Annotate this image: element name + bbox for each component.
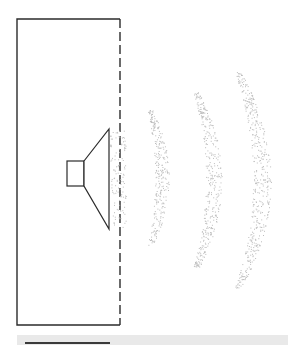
wave-dot bbox=[260, 213, 261, 214]
wave-dot bbox=[205, 126, 206, 127]
wave-dot bbox=[210, 234, 211, 235]
wave-dot bbox=[263, 180, 264, 181]
wave-dot bbox=[207, 246, 208, 247]
wave-dot bbox=[207, 131, 208, 132]
wave-dot bbox=[118, 173, 119, 174]
wave-dot bbox=[200, 111, 201, 112]
wave-dot bbox=[254, 117, 255, 118]
wave-dot bbox=[152, 111, 153, 112]
wave-dot bbox=[119, 205, 120, 206]
wave-dot bbox=[161, 148, 162, 149]
wave-dot bbox=[159, 144, 160, 145]
wave-dot bbox=[253, 98, 254, 99]
wave-dot bbox=[196, 95, 197, 96]
wave-dot bbox=[122, 158, 123, 159]
wave-dot bbox=[164, 207, 165, 208]
wave-dot bbox=[159, 151, 160, 152]
wave-dot bbox=[160, 194, 161, 195]
wave-dot bbox=[205, 136, 206, 137]
wave-dot bbox=[212, 171, 213, 172]
wave-dot bbox=[156, 171, 157, 172]
wave-dot bbox=[254, 229, 255, 230]
wave-dot bbox=[253, 144, 254, 145]
wave-dot bbox=[267, 166, 268, 167]
wave-dot bbox=[203, 236, 204, 237]
wave-dot bbox=[215, 212, 216, 213]
wave-dot bbox=[270, 199, 271, 200]
wave-dot bbox=[210, 179, 211, 180]
wave-dot bbox=[121, 196, 122, 197]
wave-dot bbox=[252, 147, 253, 148]
wave-dot bbox=[258, 210, 259, 211]
wave-dot bbox=[264, 131, 265, 132]
wave-dot bbox=[248, 115, 249, 116]
wave-dot bbox=[261, 219, 262, 220]
wave-dot bbox=[161, 200, 162, 201]
wave-dot bbox=[248, 99, 249, 100]
wave-dot bbox=[154, 121, 155, 122]
wave-dot bbox=[155, 135, 156, 136]
wave-dot bbox=[165, 152, 166, 153]
wave-dot bbox=[152, 119, 153, 120]
wave-dot bbox=[264, 231, 265, 232]
wave-dot bbox=[265, 182, 266, 183]
wave-dot bbox=[240, 282, 241, 283]
wave-dot bbox=[196, 94, 197, 95]
wave-dot bbox=[250, 262, 251, 263]
wave-dot bbox=[211, 228, 212, 229]
wave-dot bbox=[207, 119, 208, 120]
wave-dot bbox=[199, 111, 200, 112]
wave-dot bbox=[123, 174, 124, 175]
wave-dot bbox=[153, 130, 154, 131]
wave-dot bbox=[163, 217, 164, 218]
wave-dot bbox=[261, 190, 262, 191]
wave-dot bbox=[255, 104, 256, 105]
wave-dot bbox=[156, 146, 157, 147]
wave-dot bbox=[262, 184, 263, 185]
wave-dot bbox=[162, 186, 163, 187]
wave-dot bbox=[203, 102, 204, 103]
wave-dot bbox=[212, 184, 213, 185]
wave-dot bbox=[211, 153, 212, 154]
wave-dot bbox=[263, 176, 264, 177]
wave-dot bbox=[247, 276, 248, 277]
wave-dot bbox=[214, 133, 215, 134]
wave-dot bbox=[122, 192, 123, 193]
wave-dot bbox=[245, 277, 246, 278]
wave-dot bbox=[246, 275, 247, 276]
wave-dot bbox=[156, 236, 157, 237]
wave-dot bbox=[210, 222, 211, 223]
wave-dot bbox=[166, 179, 167, 180]
wave-dot bbox=[238, 76, 239, 77]
wave-dot bbox=[167, 183, 168, 184]
wave-dot bbox=[269, 202, 270, 203]
wave-dot bbox=[238, 287, 239, 288]
wave-dot bbox=[199, 114, 200, 115]
wave-dot bbox=[159, 183, 160, 184]
wave-dot bbox=[115, 193, 116, 194]
wave-dot bbox=[255, 146, 256, 147]
wave-dot bbox=[213, 197, 214, 198]
wave-dot bbox=[119, 152, 120, 153]
wave-dot bbox=[252, 262, 253, 263]
wave-dot bbox=[244, 276, 245, 277]
wave-dot bbox=[198, 97, 199, 98]
wave-dot bbox=[255, 143, 256, 144]
wave-dot bbox=[257, 182, 258, 183]
wave-dot bbox=[250, 228, 251, 229]
wave-dot bbox=[266, 218, 267, 219]
wave-dot bbox=[207, 110, 208, 111]
wave-dot bbox=[253, 206, 254, 207]
wave-dot bbox=[116, 137, 117, 138]
wave-dot bbox=[200, 256, 201, 257]
wave-dot bbox=[155, 211, 156, 212]
wave-dot bbox=[218, 177, 219, 178]
wave-dot bbox=[206, 196, 207, 197]
wave-dot bbox=[152, 133, 153, 134]
wave-dot bbox=[261, 163, 262, 164]
wave-dot bbox=[154, 218, 155, 219]
wave-dot bbox=[161, 142, 162, 143]
wave-dot bbox=[201, 264, 202, 265]
wave-dot bbox=[165, 171, 166, 172]
wave-dot bbox=[209, 158, 210, 159]
